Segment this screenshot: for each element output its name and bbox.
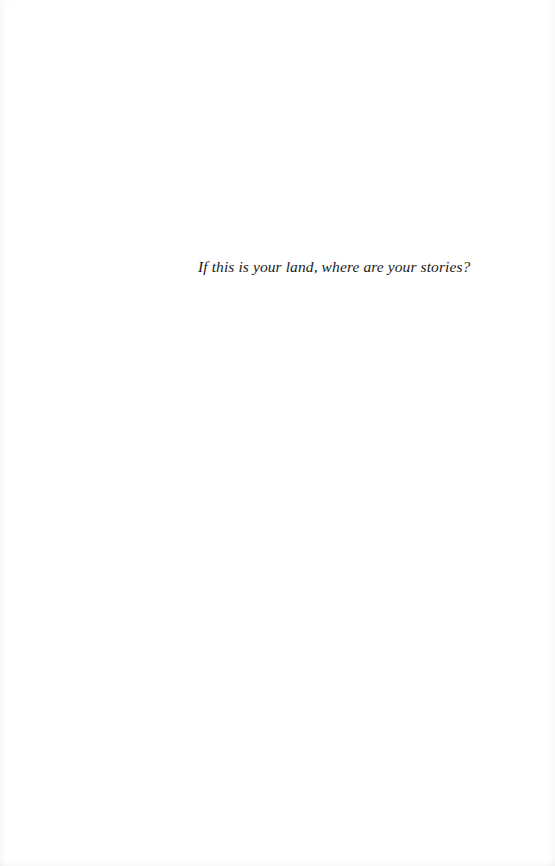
epigraph-text: If this is your land, where are your sto… — [198, 259, 470, 275]
book-page: If this is your land, where are your sto… — [0, 0, 555, 866]
